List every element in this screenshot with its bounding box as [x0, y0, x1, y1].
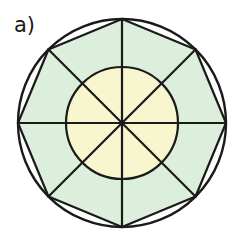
panel-label: a) — [14, 15, 35, 36]
figure-container: a) — [0, 0, 243, 247]
pinwheel-diagram — [0, 0, 243, 247]
